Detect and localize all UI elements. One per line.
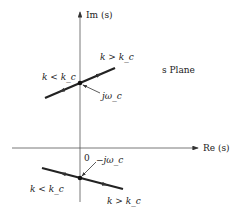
lower-left-label: k < k_c: [30, 184, 64, 195]
lower-crossing-label: −jω_c: [96, 155, 123, 166]
lower-crossing-point: [78, 176, 83, 181]
real-axis-label: Re (s): [203, 143, 230, 153]
upper-crossing-label: jω_c: [100, 91, 122, 102]
lower-right-label: k > k_c: [107, 196, 141, 207]
origin-label: 0: [84, 153, 90, 163]
imaginary-axis-label: Im (s): [86, 10, 113, 20]
upper-crossing-point: [78, 81, 83, 86]
lower-crossing-pointer: [82, 162, 96, 176]
upper-right-label: k > k_c: [100, 52, 134, 63]
upper-left-label: k < k_c: [42, 72, 76, 83]
root-locus-diagram: Im (s) Re (s) 0 s Plane k > k_c k < k_c …: [0, 0, 240, 222]
upper-crossing-pointer: [83, 85, 100, 93]
plane-title: s Plane: [162, 65, 195, 75]
